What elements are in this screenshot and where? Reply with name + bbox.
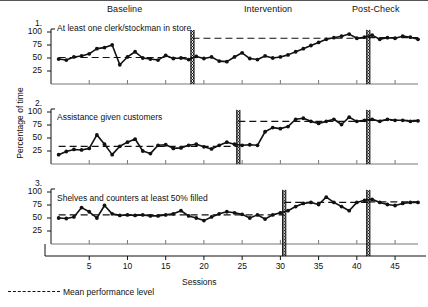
- data-point: [64, 58, 68, 62]
- data-point: [118, 214, 122, 218]
- data-point: [332, 36, 336, 40]
- data-point: [87, 210, 91, 214]
- data-point: [110, 212, 114, 216]
- data-point: [263, 54, 267, 58]
- data-point: [171, 212, 175, 216]
- data-point: [72, 215, 76, 219]
- data-point: [278, 127, 282, 131]
- data-point: [355, 201, 359, 205]
- data-point: [340, 34, 344, 38]
- data-point: [194, 216, 198, 220]
- data-point: [386, 117, 390, 121]
- data-point: [57, 57, 61, 61]
- data-point: [393, 36, 397, 40]
- data-point: [309, 201, 313, 205]
- data-point: [256, 213, 260, 217]
- phase-change-line: [367, 190, 370, 244]
- data-point: [256, 143, 260, 147]
- data-point: [408, 119, 412, 123]
- figure-multi-panel-chart: Baseline Intervention Post-Check 1. At l…: [0, 0, 428, 307]
- data-point: [301, 116, 305, 120]
- data-point: [64, 217, 68, 221]
- data-point: [363, 35, 367, 39]
- data-point: [156, 58, 160, 62]
- phase-change-line: [237, 110, 240, 164]
- data-point: [57, 216, 61, 220]
- data-point: [110, 43, 114, 47]
- data-point: [118, 63, 122, 67]
- data-point: [133, 214, 137, 218]
- data-point: [278, 211, 282, 215]
- data-point: [378, 37, 382, 41]
- data-point: [332, 117, 336, 121]
- data-point: [263, 130, 267, 134]
- data-point: [210, 147, 214, 151]
- data-point: [217, 59, 221, 63]
- data-point: [80, 206, 84, 210]
- bottom-axis-group: [45, 244, 426, 260]
- data-point: [72, 148, 76, 152]
- data-point: [64, 150, 68, 154]
- data-point: [133, 137, 137, 141]
- data-point: [217, 143, 221, 147]
- data-point: [408, 35, 412, 39]
- data-point: [340, 205, 344, 209]
- data-point: [240, 143, 244, 147]
- data-point: [363, 118, 367, 122]
- data-point: [57, 153, 61, 157]
- data-point: [202, 57, 206, 61]
- phase-change-axis-marker: [283, 244, 286, 256]
- data-point: [309, 119, 313, 123]
- data-point: [149, 214, 153, 218]
- data-point: [103, 142, 107, 146]
- phase-change-axis-marker: [367, 244, 370, 256]
- data-point: [141, 149, 145, 153]
- data-point: [233, 55, 237, 59]
- data-point: [80, 54, 84, 58]
- phase-change-line: [283, 190, 286, 244]
- data-point: [370, 33, 374, 37]
- data-point: [179, 56, 183, 60]
- data-point: [95, 47, 99, 51]
- data-point: [225, 60, 229, 64]
- legend-label: Mean performance level: [63, 287, 154, 297]
- data-point: [210, 215, 214, 219]
- data-point: [278, 55, 282, 59]
- data-point: [171, 57, 175, 61]
- data-point: [87, 52, 91, 56]
- data-point: [126, 213, 130, 217]
- data-point: [248, 57, 252, 61]
- data-point: [126, 140, 130, 144]
- data-point: [103, 204, 107, 208]
- plot-canvas: [0, 0, 428, 307]
- data-point: [386, 203, 390, 207]
- data-point: [286, 53, 290, 57]
- data-point: [95, 216, 99, 220]
- data-point: [87, 147, 91, 151]
- data-point: [309, 44, 313, 48]
- data-point: [126, 55, 130, 59]
- data-point: [256, 58, 260, 62]
- phase-change-line: [367, 110, 370, 164]
- data-point: [164, 143, 168, 147]
- data-point: [378, 119, 382, 123]
- data-point: [416, 201, 420, 205]
- data-point: [164, 54, 168, 58]
- data-point: [401, 118, 405, 122]
- data-point: [187, 143, 191, 147]
- data-point: [141, 56, 145, 60]
- data-point: [294, 50, 298, 54]
- data-point: [217, 212, 221, 216]
- data-point: [332, 201, 336, 205]
- data-point: [301, 47, 305, 51]
- data-point: [187, 58, 191, 62]
- data-point: [225, 210, 229, 214]
- data-point: [271, 213, 275, 217]
- data-point: [317, 203, 321, 207]
- data-point: [386, 36, 390, 40]
- data-point: [164, 213, 168, 217]
- panel-2-group: [47, 109, 420, 164]
- data-point: [149, 57, 153, 61]
- data-point: [317, 122, 321, 126]
- data-point: [263, 217, 267, 221]
